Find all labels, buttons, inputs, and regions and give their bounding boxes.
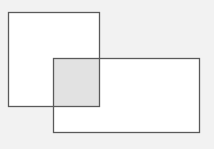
- diagram-canvas: [0, 0, 214, 149]
- overlap-region: [54, 59, 100, 107]
- overlapping-rectangles-diagram: [0, 0, 214, 149]
